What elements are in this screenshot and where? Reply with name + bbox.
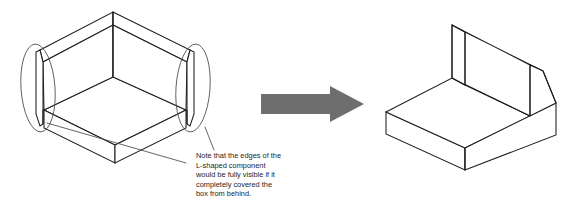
annotation-line-1: Note that the edges of the xyxy=(196,151,281,160)
annotation-line-5: box from behind. xyxy=(196,189,251,198)
solid-back-left-wall-end-face xyxy=(452,25,465,85)
arrow-icon xyxy=(261,86,364,122)
left-figure xyxy=(18,12,214,163)
annotation-note: Note that the edges of the L-shaped comp… xyxy=(195,151,283,198)
annotation-line-4: completely covered the xyxy=(196,180,272,189)
right-callout-leader-line xyxy=(205,127,214,150)
l-wall-left-end-face xyxy=(36,50,43,126)
right-figure xyxy=(386,25,556,170)
diagram-canvas: Note that the edges of the L-shaped comp… xyxy=(0,0,581,205)
transformation-arrow xyxy=(261,86,364,122)
annotation-line-2: L-shaped component xyxy=(196,161,265,170)
diagram-svg: Note that the edges of the L-shaped comp… xyxy=(0,0,581,205)
annotation-line-3: would be fully visible if it xyxy=(195,170,275,179)
l-wall-right-end-face xyxy=(187,50,194,126)
solid-back-left-wall-top-face xyxy=(452,25,543,71)
